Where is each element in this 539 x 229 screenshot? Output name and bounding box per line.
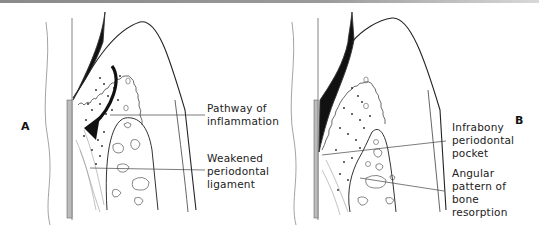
panel-b-leaders bbox=[322, 141, 446, 191]
inflammation-arrow bbox=[84, 66, 116, 140]
label-weakened-periodontal-ligament: Weakened periodontal ligament bbox=[207, 152, 269, 191]
panel-b-drawing bbox=[291, 12, 446, 225]
label-angular-bone-resorption: Angular pattern of bone resorption bbox=[452, 167, 508, 219]
panel-a-drawing bbox=[45, 12, 196, 225]
label-infrabony-periodontal-pocket: Infrabony periodontal pocket bbox=[452, 121, 514, 160]
panel-letter-b: B bbox=[515, 114, 523, 127]
label-pathway-of-inflammation: Pathway of inflammation bbox=[207, 102, 279, 128]
panel-letter-a: A bbox=[21, 120, 30, 133]
